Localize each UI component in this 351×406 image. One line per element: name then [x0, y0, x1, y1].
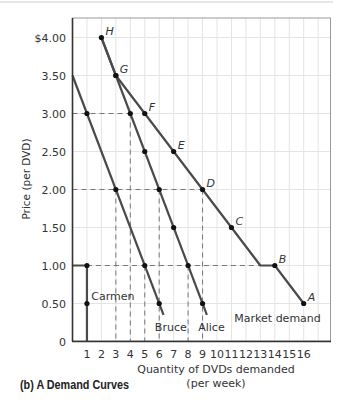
- data-point: [84, 111, 89, 116]
- point-label-b: B: [279, 253, 287, 266]
- y-tick-label: 0.50: [42, 298, 67, 311]
- y-tick-label: 1.00: [42, 260, 67, 273]
- data-point: [142, 149, 147, 154]
- y-axis-title: Price (per DVD): [20, 138, 32, 219]
- x-tick-label: 14: [268, 348, 282, 361]
- point-label-e: E: [178, 139, 185, 152]
- data-point: [113, 187, 118, 192]
- data-point: [142, 263, 147, 268]
- x-tick-label: 10: [210, 348, 224, 361]
- data-point: [272, 263, 277, 268]
- x-tick-label: 16: [297, 348, 311, 361]
- demand-curves-chart: 00.501.001.502.002.503.003.50$4.00 12345…: [0, 0, 351, 406]
- data-point: [200, 301, 205, 306]
- point-label-a: A: [307, 291, 316, 304]
- curve-label-carmen: Carmen: [91, 290, 134, 303]
- x-tick-label: 12: [239, 348, 253, 361]
- x-tick-label: 3: [112, 348, 119, 361]
- data-point: [229, 225, 234, 230]
- data-point: [84, 263, 89, 268]
- point-label-g: G: [120, 63, 129, 76]
- y-tick-label: 1.50: [42, 222, 67, 235]
- x-tick-label: 7: [170, 348, 177, 361]
- x-tick-label: 8: [185, 348, 192, 361]
- point-label-c: C: [235, 215, 243, 228]
- point-label-h: H: [105, 25, 113, 38]
- data-point: [200, 187, 205, 192]
- data-point: [99, 35, 104, 40]
- x-tick-label: 5: [141, 348, 148, 361]
- data-point: [171, 149, 176, 154]
- data-point: [157, 187, 162, 192]
- x-tick-label: 9: [199, 348, 206, 361]
- point-label-d: D: [207, 177, 215, 190]
- x-tick-labels: 12345678910111213141516: [83, 348, 310, 361]
- y-tick-label: 2.00: [42, 184, 67, 197]
- x-tick-label: 6: [156, 348, 163, 361]
- data-point: [113, 73, 118, 78]
- data-point: [186, 263, 191, 268]
- x-tick-label: 13: [253, 348, 267, 361]
- x-axis-title-sub: (per week): [132, 377, 300, 391]
- point-label-f: F: [149, 101, 156, 114]
- x-tick-label: 11: [224, 348, 238, 361]
- x-axis-title-main: Quantity of DVDs demanded: [132, 363, 300, 377]
- curve-label-bruce: Bruce: [155, 321, 187, 334]
- y-tick-label: 3.00: [42, 108, 67, 121]
- x-tick-label: 1: [83, 348, 90, 361]
- data-point: [301, 301, 306, 306]
- curve-label-alice: Alice: [198, 321, 225, 334]
- data-point: [84, 301, 89, 306]
- x-tick-label: 15: [282, 348, 296, 361]
- point-labels: HGFEDCBA: [105, 25, 315, 304]
- figure-caption: (b) A Demand Curves: [20, 378, 129, 392]
- y-tick-labels: 00.501.001.502.002.503.003.50$4.00: [35, 32, 67, 349]
- x-tick-label: 4: [127, 348, 134, 361]
- data-point: [128, 111, 133, 116]
- y-tick-label: 0: [59, 336, 66, 349]
- curve-label-market-demand: Market demand: [234, 312, 320, 325]
- data-point: [171, 225, 176, 230]
- x-axis-title: Quantity of DVDs demanded (per week): [132, 363, 300, 391]
- data-point: [142, 111, 147, 116]
- y-tick-label: $4.00: [35, 32, 67, 45]
- data-point: [157, 301, 162, 306]
- y-tick-label: 2.50: [42, 146, 67, 159]
- y-tick-label: 3.50: [42, 70, 67, 83]
- x-tick-label: 2: [98, 348, 105, 361]
